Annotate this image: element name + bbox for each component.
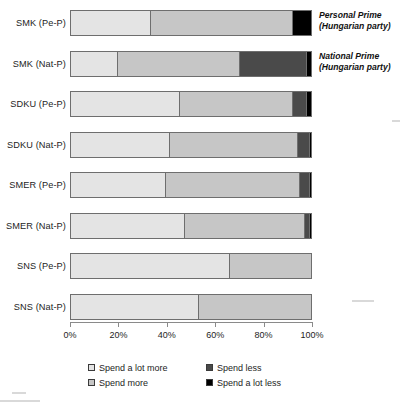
- stacked-bar: [70, 172, 312, 198]
- legend-swatch-spend-less: [206, 364, 213, 371]
- axis-tick: [264, 322, 265, 327]
- bar-segment: [179, 92, 292, 116]
- stacked-bar: [70, 253, 312, 279]
- bar-segment: [117, 52, 239, 76]
- legend-swatch-spend-a-lot-more: [88, 364, 95, 371]
- bar-segment: [297, 133, 309, 157]
- chart-legend: Spend a lot more Spend less Spend more S…: [88, 360, 338, 390]
- bar-segment: [169, 133, 296, 157]
- stacked-bar: [70, 51, 312, 77]
- bar-segment: [71, 52, 117, 76]
- row-annotation: National Prime(Hungarian party): [319, 51, 391, 73]
- axis-tick-label: 40%: [158, 330, 176, 340]
- legend-swatch-spend-more: [88, 379, 95, 386]
- scan-artifact: [12, 392, 26, 394]
- axis-tick: [70, 322, 71, 327]
- category-label: SMER (Nat-P): [6, 221, 66, 231]
- bar-row: SMER (Pe-P): [0, 170, 407, 200]
- category-label: SNS (Pe-P): [17, 261, 66, 271]
- axis-tick-label: 0%: [63, 330, 76, 340]
- bar-segment: [184, 214, 304, 238]
- legend-label: Spend a lot more: [99, 363, 168, 373]
- legend-item: Spend a lot less: [206, 378, 336, 388]
- axis-tick: [312, 322, 313, 327]
- bar-segment: [309, 173, 311, 197]
- bar-segment: [71, 11, 150, 35]
- stacked-bar-chart: SMK (Pe-P)SMK (Nat-P)SDKU (Pe-P)SDKU (Na…: [0, 0, 407, 405]
- bar-row: SNS (Pe-P): [0, 251, 407, 281]
- scan-artifact: [352, 300, 374, 302]
- plot-area: SMK (Pe-P)SMK (Nat-P)SDKU (Pe-P)SDKU (Na…: [0, 0, 407, 318]
- bar-segment: [71, 92, 179, 116]
- bar-segment: [292, 11, 311, 35]
- bar-row: SMER (Nat-P): [0, 211, 407, 241]
- bar-segment: [229, 254, 311, 278]
- bar-row: SDKU (Nat-P): [0, 130, 407, 160]
- row-annotation: Personal Prime(Hungarian party): [319, 10, 391, 32]
- legend-item: Spend less: [206, 363, 336, 373]
- legend-label: Spend less: [217, 363, 262, 373]
- legend-label: Spend more: [99, 378, 148, 388]
- bar-segment: [71, 295, 198, 319]
- category-label: SDKU (Pe-P): [10, 99, 66, 109]
- bar-segment: [71, 133, 169, 157]
- bar-segment: [165, 173, 299, 197]
- axis-tick-label: 80%: [255, 330, 273, 340]
- bar-segment: [306, 52, 311, 76]
- category-label: SMK (Nat-P): [13, 59, 66, 69]
- bar-segment: [309, 133, 311, 157]
- bar-segment: [71, 214, 184, 238]
- bar-row: SDKU (Pe-P): [0, 89, 407, 119]
- legend-item: Spend a lot more: [88, 363, 206, 373]
- bar-segment: [150, 11, 292, 35]
- bar-segment: [198, 295, 311, 319]
- legend-item: Spend more: [88, 378, 206, 388]
- legend-swatch-spend-a-lot-less: [206, 379, 213, 386]
- x-axis-line: [70, 322, 312, 323]
- stacked-bar: [70, 213, 312, 239]
- scan-artifact: [0, 400, 40, 402]
- annotation-line: (Hungarian party): [319, 21, 391, 32]
- bar-segment: [292, 92, 306, 116]
- bar-segment: [239, 52, 306, 76]
- axis-tick: [118, 322, 119, 327]
- stacked-bar: [70, 10, 312, 36]
- bar-segment: [309, 214, 311, 238]
- bar-row: SNS (Nat-P): [0, 292, 407, 322]
- category-label: SDKU (Nat-P): [7, 140, 66, 150]
- bar-segment: [299, 173, 309, 197]
- annotation-line: Personal Prime: [319, 10, 391, 21]
- bar-segment: [306, 92, 311, 116]
- category-label: SNS (Nat-P): [14, 302, 66, 312]
- category-label: SMK (Pe-P): [16, 18, 66, 28]
- category-label: SMER (Pe-P): [9, 180, 66, 190]
- axis-tick: [215, 322, 216, 327]
- stacked-bar: [70, 294, 312, 320]
- annotation-line: (Hungarian party): [319, 62, 391, 73]
- axis-tick-label: 100%: [300, 330, 323, 340]
- scan-artifact: [392, 120, 400, 122]
- axis-tick-label: 20%: [109, 330, 127, 340]
- legend-label: Spend a lot less: [217, 378, 281, 388]
- stacked-bar: [70, 132, 312, 158]
- axis-tick: [167, 322, 168, 327]
- bar-segment: [71, 173, 165, 197]
- annotation-line: National Prime: [319, 51, 391, 62]
- bar-segment: [71, 254, 229, 278]
- axis-tick-label: 60%: [206, 330, 224, 340]
- stacked-bar: [70, 91, 312, 117]
